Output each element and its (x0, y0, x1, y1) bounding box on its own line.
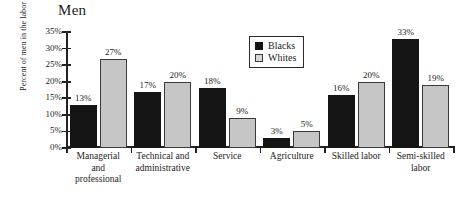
legend-label-whites: Whites (268, 53, 296, 63)
bar-blacks-4 (328, 95, 355, 148)
category-label-line: Technical and (131, 151, 196, 163)
y-tick-label: 10% (28, 110, 62, 119)
x-axis-category-labels: ManagerialandprofessionalTechnical andad… (66, 151, 453, 217)
bar-blacks-5 (392, 39, 419, 148)
legend-swatch-blacks (255, 42, 263, 50)
x-tick-mark (66, 146, 68, 153)
bar-whites-0 (100, 59, 127, 148)
bar-value-label: 20% (358, 71, 385, 80)
legend-item-blacks: Blacks (255, 40, 296, 52)
bar-blacks-2 (199, 88, 226, 148)
bar-value-label: 33% (392, 28, 419, 37)
chart-title: Men (58, 2, 86, 19)
bar-value-label: 5% (293, 120, 320, 129)
category-label-line: Service (195, 151, 260, 163)
x-tick-mark (453, 146, 455, 153)
y-tick-mark (62, 31, 71, 33)
category-label: Service (195, 151, 260, 163)
y-tick-label: 25% (28, 60, 62, 69)
chart-legend: Blacks Whites (249, 36, 304, 68)
bar-blacks-0 (70, 105, 97, 148)
bar-whites-1 (164, 82, 191, 148)
legend-item-whites: Whites (255, 52, 296, 64)
bar-value-label: 3% (263, 127, 290, 136)
x-tick-mark (131, 146, 133, 153)
bar-whites-5 (422, 85, 449, 148)
bar-value-label: 27% (100, 48, 127, 57)
bar-value-label: 20% (164, 71, 191, 80)
bar-whites-3 (293, 131, 320, 148)
category-label: Agriculture (260, 151, 325, 163)
y-tick-mark (62, 64, 71, 66)
category-label-line: professional (66, 174, 131, 186)
y-tick-mark (62, 114, 71, 116)
bar-chart-figure: Men Percent of men in the labor force 0%… (0, 0, 462, 219)
y-tick-mark (62, 131, 71, 133)
bar-whites-2 (229, 118, 256, 148)
category-label: Semi-skilledlabor (389, 151, 454, 174)
bar-value-label: 18% (199, 77, 226, 86)
category-label: Skilled labor (324, 151, 389, 163)
category-label: Managerialandprofessional (66, 151, 131, 186)
y-tick-label: 0% (28, 143, 62, 152)
y-tick-mark (62, 97, 71, 99)
y-tick-label: 15% (28, 93, 62, 102)
category-label-line: labor (389, 163, 454, 175)
y-tick-label: 30% (28, 44, 62, 53)
bar-group: 18%9% (199, 32, 256, 148)
y-tick-label: 35% (28, 27, 62, 36)
bar-blacks-3 (263, 138, 290, 148)
bar-value-label: 9% (229, 107, 256, 116)
bar-group: 13%27% (70, 32, 127, 148)
x-tick-mark (389, 146, 391, 153)
category-label: Technical andadministrative (131, 151, 196, 174)
legend-label-blacks: Blacks (268, 41, 295, 51)
bar-value-label: 17% (134, 81, 161, 90)
category-label-line: Agriculture (260, 151, 325, 163)
bar-whites-4 (358, 82, 385, 148)
bar-group: 33%19% (392, 32, 449, 148)
category-label-line: Managerial (66, 151, 131, 163)
x-tick-mark (260, 146, 262, 153)
category-label-line: administrative (131, 163, 196, 175)
bar-blacks-1 (134, 92, 161, 148)
category-label-line: and (66, 163, 131, 175)
y-tick-label: 20% (28, 77, 62, 86)
bar-group: 16%20% (328, 32, 385, 148)
category-label-line: Semi-skilled (389, 151, 454, 163)
category-label-line: Skilled labor (324, 151, 389, 163)
legend-swatch-whites (255, 54, 263, 62)
x-tick-mark (195, 146, 197, 153)
x-tick-mark (324, 146, 326, 153)
bar-group: 17%20% (134, 32, 191, 148)
y-axis-tick-labels: 0%5%10%15%20%25%30%35% (28, 0, 62, 219)
y-tick-mark (62, 81, 71, 83)
bar-value-label: 16% (328, 84, 355, 93)
y-tick-label: 5% (28, 126, 62, 135)
bar-value-label: 13% (70, 94, 97, 103)
y-tick-mark (62, 48, 71, 50)
bar-value-label: 19% (422, 74, 449, 83)
